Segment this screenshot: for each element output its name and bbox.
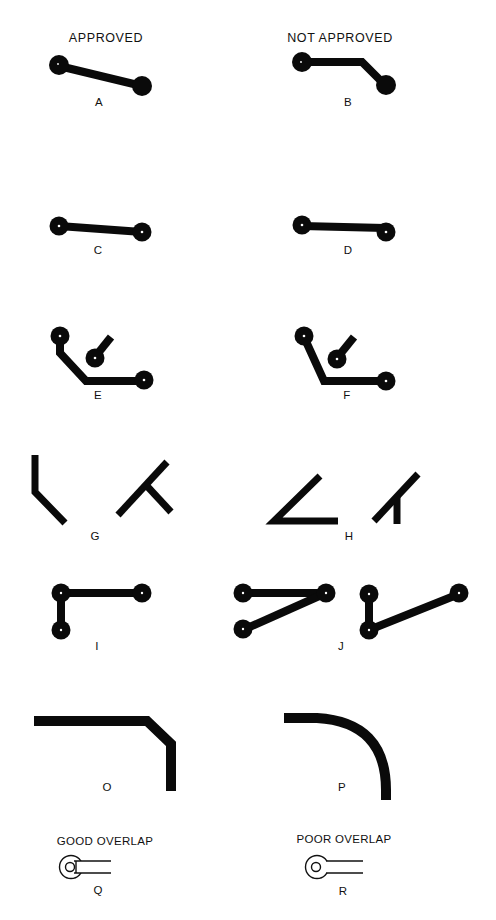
- figure-g: G: [35, 455, 171, 542]
- pad: [376, 75, 396, 95]
- trace: [369, 594, 459, 630]
- hole-outline: [312, 863, 321, 872]
- caption-good-overlap: GOOD OVERLAP: [57, 835, 153, 847]
- trace: [35, 455, 65, 523]
- trace: [59, 226, 142, 232]
- trace: [284, 718, 386, 800]
- figure-label-b: B: [344, 96, 352, 108]
- tee-branch: [146, 485, 171, 512]
- trace: [243, 593, 326, 630]
- figure-label-o: O: [102, 781, 111, 793]
- caption-poor-overlap: POOR OVERLAP: [297, 833, 392, 845]
- trace-routing-diagram: APPROVED NOT APPROVED A B C D: [0, 0, 496, 920]
- figure-h: H: [274, 474, 418, 542]
- figure-label-i: I: [95, 640, 99, 652]
- figure-i: I: [52, 584, 152, 653]
- figure-label-p: P: [338, 781, 346, 793]
- figure-label-d: D: [344, 244, 353, 256]
- hole-outline: [66, 863, 75, 872]
- figure-e: E: [51, 327, 154, 402]
- figure-a: A: [49, 55, 152, 108]
- figure-b: B: [292, 52, 396, 108]
- figure-label-f: F: [343, 389, 350, 401]
- header-not-approved: NOT APPROVED: [287, 31, 393, 45]
- pad: [132, 76, 152, 96]
- figure-p: P: [284, 718, 386, 800]
- figure-c: C: [50, 217, 152, 257]
- figure-label-a: A: [95, 96, 103, 108]
- figure-label-e: E: [94, 389, 102, 401]
- pad: [49, 55, 69, 75]
- figure-label-c: C: [94, 244, 103, 256]
- figure-label-h: H: [345, 530, 354, 542]
- trace: [302, 226, 385, 228]
- figure-o: O: [34, 721, 171, 793]
- figure-j: J: [234, 584, 469, 653]
- figure-f: F: [295, 327, 396, 402]
- header-approved: APPROVED: [69, 31, 143, 45]
- figure-q: GOOD OVERLAP Q: [57, 835, 153, 896]
- figure-d: D: [293, 216, 396, 257]
- trace: [274, 476, 338, 521]
- figure-r: POOR OVERLAP R: [297, 833, 392, 897]
- pad: [292, 52, 312, 72]
- figure-label-j: J: [338, 640, 344, 652]
- trace: [302, 62, 386, 86]
- figure-label-g: G: [90, 530, 99, 542]
- trace: [59, 66, 142, 86]
- trace: [118, 462, 167, 515]
- figure-label-q: Q: [93, 884, 102, 896]
- figure-label-r: R: [339, 885, 348, 897]
